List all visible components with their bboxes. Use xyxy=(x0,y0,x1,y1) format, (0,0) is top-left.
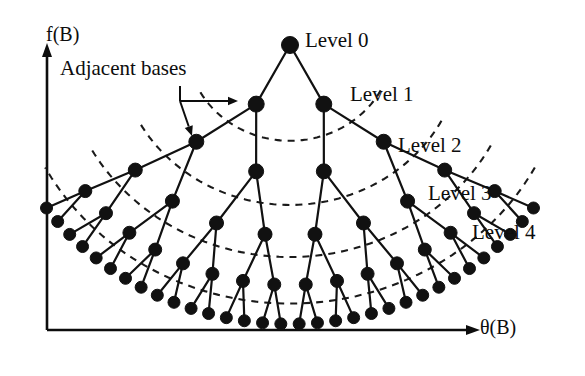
tree-node xyxy=(220,312,232,324)
level-label-4: Level 4 xyxy=(472,222,536,243)
tree-node xyxy=(90,252,102,264)
tree-node xyxy=(316,96,332,112)
tree-node xyxy=(468,207,481,220)
x-axis-arrowhead xyxy=(466,325,480,335)
tree-node xyxy=(400,296,412,308)
tree-node xyxy=(238,315,250,327)
tree-node xyxy=(41,202,53,214)
level-arc-1 xyxy=(139,121,442,205)
tree-edge xyxy=(265,234,274,284)
tree-node xyxy=(275,318,287,330)
tree-node xyxy=(464,263,476,275)
tree-node xyxy=(438,163,452,177)
tree-node xyxy=(308,227,322,241)
tree-node xyxy=(268,278,281,291)
axes-group xyxy=(42,43,480,335)
tree-edge xyxy=(256,45,290,104)
tree-node xyxy=(383,302,395,314)
tree-node xyxy=(236,274,249,287)
x-axis-label: θ(B) xyxy=(480,317,516,337)
tree-node xyxy=(99,207,112,220)
tree-node xyxy=(203,308,215,320)
figure-canvas: f(B) θ(B) Adjacent bases Level 0 Level 1… xyxy=(0,0,585,376)
tree-node xyxy=(293,318,305,330)
tree-edge xyxy=(324,171,364,223)
tree-node xyxy=(249,164,264,179)
tree-edge xyxy=(243,234,265,281)
tree-edge xyxy=(315,234,337,281)
tree-node xyxy=(527,202,539,214)
tree-node xyxy=(330,315,342,327)
tree-node xyxy=(331,274,344,287)
tree-edge xyxy=(363,223,367,274)
arrow-to-upper-base-head xyxy=(228,97,238,105)
tree-node xyxy=(165,194,179,208)
tree-node xyxy=(123,226,136,239)
tree-node xyxy=(105,263,117,275)
tree-node xyxy=(168,296,180,308)
tree-node xyxy=(248,96,264,112)
tree-node xyxy=(390,257,403,270)
arrow-to-lower-base-shaft xyxy=(180,101,189,127)
tree-edge xyxy=(217,171,257,223)
tree-node xyxy=(478,252,490,264)
tree-node xyxy=(120,272,132,284)
tree-node xyxy=(258,227,272,241)
tree-edge xyxy=(212,223,216,274)
y-axis-label: f(B) xyxy=(46,24,79,44)
tree-node xyxy=(206,267,219,280)
tree-node xyxy=(376,134,391,149)
level-label-3: Level 3 xyxy=(428,183,492,204)
tree-node xyxy=(77,241,89,253)
tree-edge xyxy=(290,45,324,104)
tree-node xyxy=(185,302,197,314)
adjacent-bases-arrows xyxy=(180,86,238,136)
tree-node xyxy=(135,281,147,293)
tree-node xyxy=(448,272,460,284)
tree-node xyxy=(64,228,76,240)
tree-node xyxy=(401,194,415,208)
level-label-1: Level 1 xyxy=(350,84,414,105)
tree-node xyxy=(433,281,445,293)
tree-node xyxy=(149,243,162,256)
tree-node xyxy=(417,289,429,301)
tree-edge xyxy=(324,104,384,142)
tree-node xyxy=(151,289,163,301)
tree-edge xyxy=(306,234,315,284)
tree-node xyxy=(282,37,299,54)
tree-node xyxy=(418,243,431,256)
tree-node xyxy=(365,308,377,320)
tree-node xyxy=(210,216,224,230)
level-label-2: Level 2 xyxy=(398,135,462,156)
tree-node xyxy=(361,267,374,280)
arrow-to-lower-base-head xyxy=(185,125,193,136)
tree-node xyxy=(444,226,457,239)
tree-node xyxy=(356,216,370,230)
tree-edge xyxy=(196,104,256,142)
tree-edge xyxy=(183,223,217,263)
tree-node xyxy=(299,278,312,291)
tree-node xyxy=(257,317,269,329)
level-label-0: Level 0 xyxy=(305,30,369,51)
tree-node xyxy=(52,216,64,228)
tree-node xyxy=(316,164,331,179)
tree-node xyxy=(79,185,92,198)
tree-node xyxy=(348,312,360,324)
y-axis-arrowhead xyxy=(42,43,52,57)
adjacent-bases-label: Adjacent bases xyxy=(60,58,187,79)
tree-node xyxy=(177,257,190,270)
tree-node xyxy=(189,134,204,149)
tree-node xyxy=(128,163,142,177)
tree-node xyxy=(311,317,323,329)
